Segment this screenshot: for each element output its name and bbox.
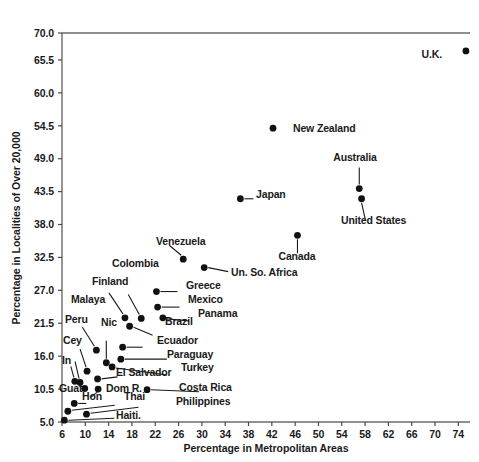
- x-tick-label: 10: [80, 428, 92, 440]
- x-axis-ticks: 61014182226303438424650545862667074: [59, 422, 464, 440]
- data-point-label: United States: [341, 214, 406, 226]
- x-tick-label: 58: [359, 428, 371, 440]
- y-tick-label: 21.5: [34, 317, 54, 329]
- x-tick-label: 6: [59, 428, 65, 440]
- data-point-label: Peru: [65, 313, 88, 325]
- data-point-label: Cey: [63, 334, 82, 346]
- y-tick-label: 32.5: [34, 251, 54, 263]
- x-tick-label: 62: [383, 428, 395, 440]
- y-tick-label: 65.5: [34, 54, 54, 66]
- data-point-label: Panama: [198, 307, 238, 319]
- data-point-label: Nic: [101, 316, 117, 328]
- data-point[interactable]: Haiti.: (6.4, 5.3): [61, 417, 68, 424]
- x-tick-label: 38: [243, 428, 255, 440]
- data-point[interactable]: Greece: (22.2, 26.8): [153, 288, 160, 295]
- y-tick-label: 10.5: [34, 383, 54, 395]
- data-point-label: In: [62, 354, 71, 366]
- data-point-label: Colombia: [112, 257, 159, 269]
- data-point-label: Paraguay: [167, 348, 213, 360]
- data-point-label: U.K.: [422, 48, 443, 60]
- leader-line: [134, 327, 153, 335]
- leader-line: [80, 349, 86, 367]
- x-tick-label: 26: [173, 428, 185, 440]
- y-tick-label: 70.0: [34, 27, 54, 39]
- y-tick-label: 16.0: [34, 350, 54, 362]
- data-point-labels: U.K.New ZealandAustraliaUnited StatesJap…: [59, 48, 442, 421]
- data-point-label: Venezuela: [156, 235, 206, 247]
- data-point[interactable]: Turkey: (14.6, 14.2): [109, 364, 116, 371]
- x-tick-label: 30: [196, 428, 208, 440]
- data-point[interactable]: Hon: (8.1, 8.1): [71, 400, 78, 407]
- leader-line: [68, 418, 114, 420]
- data-point-label: Greece: [186, 279, 221, 291]
- leader-line: [128, 294, 139, 314]
- y-axis-title: Percentage in Localities of Over 20,000: [10, 131, 22, 324]
- x-tick-label: 22: [150, 428, 162, 440]
- data-point[interactable]: Nic: (13.6, 14.9): [103, 359, 110, 366]
- data-point-label: Costa Rica: [179, 381, 232, 393]
- data-point[interactable]: El Salvador: (12.1, 12.2): [94, 376, 101, 383]
- data-point[interactable]: Malaya: (11.9, 17): [93, 347, 100, 354]
- data-point[interactable]: Ecuador: (16.4, 17.5): [119, 344, 126, 351]
- leader-line: [82, 327, 94, 346]
- x-tick-label: 34: [219, 428, 231, 440]
- data-point-label: Canada: [278, 250, 315, 262]
- x-axis-title: Percentage in Metropolitan Areas: [184, 442, 349, 454]
- leader-line: [75, 362, 79, 379]
- scatter-chart: 5.010.516.021.527.032.538.043.549.054.56…: [0, 0, 479, 462]
- data-point[interactable]: United States: (57.4, 42.3): [358, 195, 365, 202]
- data-point-label: Thai: [124, 390, 145, 402]
- data-point[interactable]: Brazil: (17.6, 21): [126, 323, 133, 330]
- x-tick-label: 14: [103, 428, 115, 440]
- data-point-label: El Salvador: [116, 366, 172, 378]
- y-tick-label: 27.0: [34, 284, 54, 296]
- data-point-label: Ecuador: [157, 334, 198, 346]
- plot-frame: [62, 33, 470, 422]
- data-point[interactable]: Peru: (10.3, 13.5): [84, 368, 91, 375]
- data-point[interactable]: U.K.: (75.3, 67): [463, 48, 470, 55]
- data-point[interactable]: Thai: (7, 6.8): [64, 408, 71, 415]
- data-point[interactable]: Venezuela: (26.8, 32.2): [180, 256, 187, 263]
- data-point-label: Haiti.: [116, 409, 141, 421]
- data-point[interactable]: Un. So. Africa: (30.4, 30.8): [201, 264, 208, 271]
- y-tick-label: 60.0: [34, 87, 54, 99]
- data-point-label: Brazil: [165, 315, 193, 327]
- x-tick-label: 66: [406, 428, 418, 440]
- data-point-label: Australia: [333, 151, 377, 163]
- x-tick-label: 46: [289, 428, 301, 440]
- x-tick-label: 42: [266, 428, 278, 440]
- data-point-label: Mexico: [188, 293, 223, 305]
- data-point-label: Japan: [256, 188, 286, 200]
- y-tick-label: 5.0: [40, 416, 55, 428]
- data-point-label: New Zealand: [293, 122, 356, 134]
- data-point[interactable]: New Zealand: (42.2, 54.1): [270, 125, 277, 132]
- leader-line: [208, 268, 228, 272]
- data-point[interactable]: Finland: (16.8, 22.4): [122, 314, 129, 321]
- x-tick-label: 54: [336, 428, 348, 440]
- leader-line: [72, 405, 115, 410]
- data-point[interactable]: Paraguay: (16.1, 15.5): [117, 356, 124, 363]
- x-tick-label: 18: [126, 428, 138, 440]
- chart-canvas: 5.010.516.021.527.032.538.043.549.054.56…: [0, 0, 479, 462]
- data-point-label: Turkey: [181, 361, 214, 373]
- data-point-label: Malaya: [71, 293, 105, 305]
- data-point[interactable]: Australia: (57, 44): [356, 185, 363, 192]
- y-tick-label: 54.5: [34, 120, 54, 132]
- data-point[interactable]: Colombia: (19.6, 22.3): [138, 315, 145, 322]
- data-point[interactable]: Canada: (46.4, 36.2): [294, 232, 301, 239]
- x-tick-label: 50: [313, 428, 325, 440]
- data-point[interactable]: Philippines: (10.2, 6.3): [83, 411, 90, 418]
- data-point-label: Finland: [92, 275, 128, 287]
- data-point-label: Un. So. Africa: [231, 266, 298, 278]
- y-tick-label: 43.5: [34, 185, 54, 197]
- leader-line: [109, 293, 123, 314]
- leader-line: [71, 366, 74, 377]
- data-point-label: Guat: [59, 382, 83, 394]
- y-tick-label: 38.0: [34, 218, 54, 230]
- data-point[interactable]: Japan: (36.6, 42.3): [237, 195, 244, 202]
- y-tick-label: 49.0: [34, 152, 54, 164]
- x-tick-label: 70: [429, 428, 441, 440]
- data-point[interactable]: Mexico: (22.4, 24.2): [154, 304, 161, 311]
- y-axis-ticks: 5.010.516.021.527.032.538.043.549.054.56…: [34, 27, 62, 428]
- data-point-label: Philippines: [176, 395, 231, 407]
